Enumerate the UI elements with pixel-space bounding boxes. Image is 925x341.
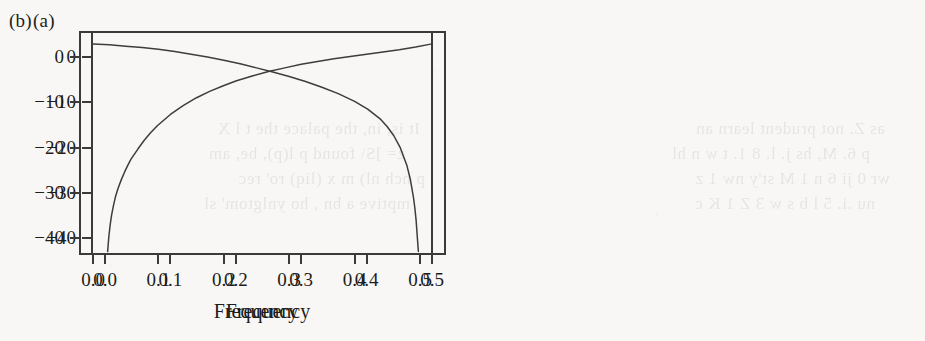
panel-b: (b) 0−10−20−30−400.00.10.20.30.40.5 Freq… [0, 0, 470, 341]
x-tick-label: 0.3 [277, 269, 301, 291]
x-tick-mark [288, 255, 290, 264]
y-tick-mark [70, 192, 79, 194]
ghost-text-line: nu .i. 5 l b s w 3 Z 1 K c [695, 191, 875, 216]
x-tick-mark [419, 255, 421, 264]
figure-sheet: as Z. not prudent learn anp 6. M, hs j. … [0, 0, 925, 341]
x-tick-mark [354, 255, 356, 264]
x-tick-mark [92, 255, 94, 264]
y-tick-mark [70, 56, 79, 58]
spectrum-curve [93, 44, 418, 252]
x-tick-label: 0.2 [212, 269, 236, 291]
ghost-text-line: wr 0 ji 6 n 1 M st'y nw 1 z [695, 166, 890, 191]
x-tick-label: 0.4 [343, 269, 367, 291]
y-tick-label: −20 [9, 137, 64, 159]
y-tick-label: 0 [9, 46, 64, 68]
panel-b-curve-area [79, 31, 433, 255]
y-tick-label: −10 [9, 91, 64, 113]
x-tick-mark [157, 255, 159, 264]
ghost-text-line: as Z. not prudent learn an [696, 116, 885, 141]
y-tick-label: −30 [9, 182, 64, 204]
y-tick-mark [70, 237, 79, 239]
x-tick-label: 0.5 [408, 269, 432, 291]
y-tick-mark [70, 147, 79, 149]
x-tick-label: 0.0 [81, 269, 105, 291]
panel-b-spectrum-svg [79, 31, 433, 255]
y-tick-label: −40 [9, 227, 64, 249]
panel-b-label: (b) [9, 10, 32, 32]
y-tick-mark [70, 101, 79, 103]
x-tick-mark [223, 255, 225, 264]
x-tick-label: 0.1 [147, 269, 171, 291]
panel-b-xaxis-title: Frequency [214, 300, 298, 323]
ghost-text-line: p 6. M, hs j. l. 8 1. t w n hl [672, 141, 870, 166]
